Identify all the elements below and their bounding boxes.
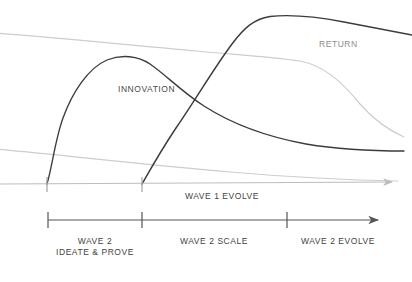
curve-baseline-drift [0, 149, 398, 181]
upper-axis-line [0, 182, 392, 184]
phase-line-1: WAVE 2 SCALE [180, 236, 248, 247]
diagram-canvas: INNOVATION RETURN WAVE 1 EVOLVE WAVE 2 I… [0, 0, 412, 282]
phase-line-2: IDEATE & PROVE [56, 247, 134, 258]
curve-innovation-wave2 [142, 16, 412, 184]
curve-label-innovation: INNOVATION [118, 84, 175, 95]
phase-label-wave-2-evolve: WAVE 2 EVOLVE [301, 236, 375, 247]
curve-innovation-wave1 [47, 57, 404, 184]
curve-label-return: RETURN [319, 39, 358, 50]
phase-line-1: WAVE 2 [56, 236, 134, 247]
phase-label-wave-2-scale: WAVE 2 SCALE [180, 236, 248, 247]
phase-line-1: WAVE 2 EVOLVE [301, 236, 375, 247]
axis-label-wave-1-evolve: WAVE 1 EVOLVE [185, 191, 259, 202]
phase-label-wave-2-ideate-prove: WAVE 2 IDEATE & PROVE [56, 236, 134, 258]
